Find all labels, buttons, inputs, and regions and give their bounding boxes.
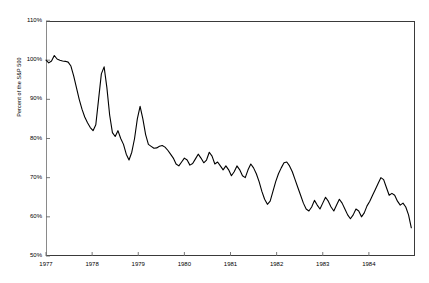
y-tick-label: 70%	[10, 174, 42, 180]
x-tick-label: 1977	[26, 261, 66, 267]
y-tick-label: 90%	[10, 95, 42, 101]
x-tick-label: 1984	[349, 261, 389, 267]
data-line-series-0	[46, 55, 411, 227]
x-axis-ticks	[46, 252, 369, 256]
chart-figure: Percent of the S&P 500 50%60%70%80%90%10…	[0, 0, 429, 283]
y-tick-label: 110%	[10, 17, 42, 23]
y-tick-label: 50%	[10, 252, 42, 258]
y-tick-label: 100%	[10, 56, 42, 62]
x-tick-label: 1980	[164, 261, 204, 267]
x-tick-label: 1982	[257, 261, 297, 267]
y-tick-label: 60%	[10, 213, 42, 219]
chart-canvas	[0, 0, 429, 283]
x-tick-label: 1983	[303, 261, 343, 267]
x-tick-label: 1978	[72, 261, 112, 267]
y-tick-label: 80%	[10, 135, 42, 141]
x-tick-label: 1981	[211, 261, 251, 267]
y-axis-ticks	[46, 21, 50, 256]
x-tick-label: 1979	[118, 261, 158, 267]
